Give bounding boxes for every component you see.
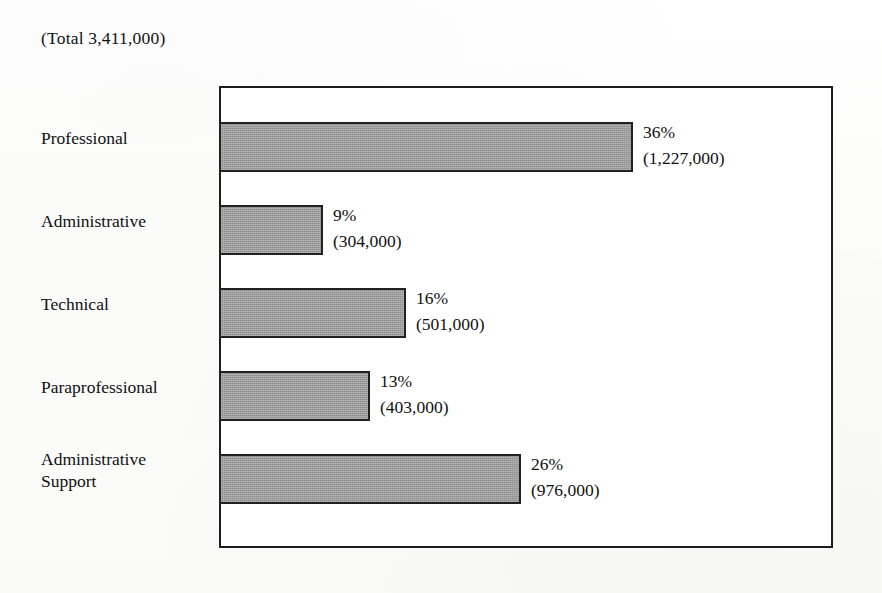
category-label-line1: Technical xyxy=(41,294,109,314)
chart-page: (Total 3,411,000) Professional Administr… xyxy=(0,0,882,593)
category-label-technical: Technical xyxy=(41,293,109,315)
category-label-administrative-support: Administrative Support xyxy=(41,448,146,492)
category-label-administrative: Administrative xyxy=(41,210,146,232)
category-label-line1: Professional xyxy=(41,128,128,148)
category-label-line1: Administrative xyxy=(41,211,146,231)
chart-total-label: (Total 3,411,000) xyxy=(41,28,166,49)
category-label-line2: Support xyxy=(41,471,96,491)
plot-frame xyxy=(219,86,833,548)
category-axis: Professional Administrative Technical Pa… xyxy=(0,86,219,548)
category-label-professional: Professional xyxy=(41,127,128,149)
category-label-paraprofessional: Paraprofessional xyxy=(41,376,158,398)
category-label-line1: Paraprofessional xyxy=(41,377,158,397)
category-label-line1: Administrative xyxy=(41,449,146,469)
